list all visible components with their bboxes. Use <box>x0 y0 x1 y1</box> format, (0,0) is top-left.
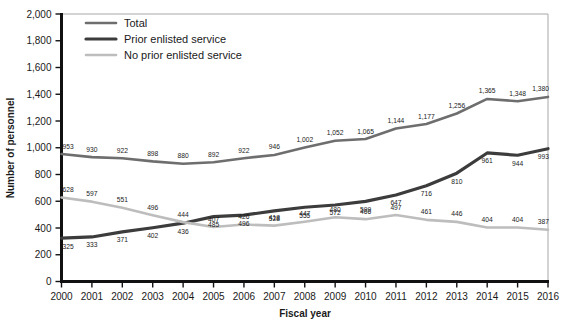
chart-legend: TotalPrior enlisted serviceNo prior enli… <box>86 17 242 61</box>
point-label: 551 <box>117 196 128 203</box>
point-label: 1,380 <box>532 85 549 92</box>
y-tick-label: 200 <box>35 249 52 260</box>
x-axis-tick-labels: 2000200120022003200420052006200720082009… <box>50 291 559 302</box>
point-label: 446 <box>451 210 462 217</box>
x-tick-label: 2015 <box>506 291 529 302</box>
point-label: 892 <box>208 151 219 158</box>
y-tick-label: 600 <box>35 196 52 207</box>
y-tick-label: 1,600 <box>26 62 51 73</box>
point-label: 404 <box>482 216 493 223</box>
point-label: 426 <box>238 213 249 220</box>
point-label: 407 <box>208 216 219 223</box>
x-tick-label: 2005 <box>202 291 225 302</box>
y-axis-tick-labels: 02004006008001,0001,2001,4001,6001,8002,… <box>26 9 51 288</box>
point-label: 597 <box>86 190 97 197</box>
point-label: 946 <box>269 143 280 150</box>
point-label: 922 <box>117 147 128 154</box>
point-label: 402 <box>147 232 158 239</box>
x-tick-label: 2004 <box>172 291 195 302</box>
line-chart: 02004006008001,0001,2001,4001,6001,8002,… <box>0 0 565 325</box>
point-label: 447 <box>299 210 310 217</box>
point-label: 1,365 <box>479 87 496 94</box>
point-label: 628 <box>63 186 74 193</box>
x-tick-label: 2014 <box>476 291 499 302</box>
y-tick-label: 0 <box>46 276 52 287</box>
point-label: 961 <box>482 157 493 164</box>
point-label: 496 <box>147 204 158 211</box>
point-label: 325 <box>63 243 74 250</box>
x-tick-label: 2006 <box>233 291 256 302</box>
point-label: 496 <box>238 220 249 227</box>
point-label: 404 <box>512 216 523 223</box>
point-label: 810 <box>451 178 462 185</box>
y-tick-label: 1,000 <box>26 142 51 153</box>
point-label: 1,256 <box>448 102 465 109</box>
y-tick-label: 2,000 <box>26 9 51 20</box>
y-tick-label: 800 <box>35 169 52 180</box>
y-tick-label: 1,400 <box>26 89 51 100</box>
y-tick-label: 1,800 <box>26 35 51 46</box>
x-axis-title: Fiscal year <box>279 308 331 319</box>
point-label: 497 <box>390 204 401 211</box>
point-label: 371 <box>117 236 128 243</box>
series-line-0 <box>62 97 549 164</box>
point-label: 333 <box>86 241 97 248</box>
y-tick-label: 400 <box>35 223 52 234</box>
x-tick-label: 2010 <box>354 291 377 302</box>
x-tick-label: 2000 <box>50 291 73 302</box>
chart-container: 02004006008001,0001,2001,4001,6001,8002,… <box>0 0 565 325</box>
x-tick-label: 2002 <box>111 291 134 302</box>
point-label: 466 <box>360 208 371 215</box>
x-tick-label: 2007 <box>263 291 286 302</box>
point-label: 898 <box>147 150 158 157</box>
point-label: 993 <box>538 153 549 160</box>
point-label: 1,065 <box>357 128 374 135</box>
point-label: 387 <box>538 218 549 225</box>
point-label: 1,177 <box>418 113 435 120</box>
legend-label-1: Prior enlisted service <box>124 33 226 45</box>
x-tick-label: 2016 <box>537 291 560 302</box>
point-label: 922 <box>238 147 249 154</box>
point-label: 716 <box>421 190 432 197</box>
x-tick-label: 2001 <box>81 291 104 302</box>
legend-label-0: Total <box>124 17 147 29</box>
point-label: 1,052 <box>327 129 344 136</box>
point-label: 444 <box>178 211 189 218</box>
legend-label-2: No prior enlisted service <box>124 49 242 61</box>
point-label: 1,002 <box>296 136 313 143</box>
point-label: 1,144 <box>388 117 405 124</box>
point-label: 480 <box>330 206 341 213</box>
x-tick-label: 2003 <box>142 291 165 302</box>
y-axis-title: Number of personnel <box>5 98 16 199</box>
point-label: 1,348 <box>509 90 526 97</box>
point-label: 418 <box>269 214 280 221</box>
x-tick-label: 2009 <box>324 291 347 302</box>
point-label: 461 <box>421 208 432 215</box>
point-label: 436 <box>178 228 189 235</box>
point-label: 930 <box>86 146 97 153</box>
x-tick-label: 2011 <box>385 291 407 302</box>
point-label: 944 <box>512 160 523 167</box>
point-label: 953 <box>63 143 74 150</box>
point-label: 880 <box>178 152 189 159</box>
x-tick-label: 2012 <box>415 291 438 302</box>
y-tick-label: 1,200 <box>26 116 51 127</box>
x-tick-label: 2013 <box>446 291 469 302</box>
x-tick-label: 2008 <box>294 291 317 302</box>
